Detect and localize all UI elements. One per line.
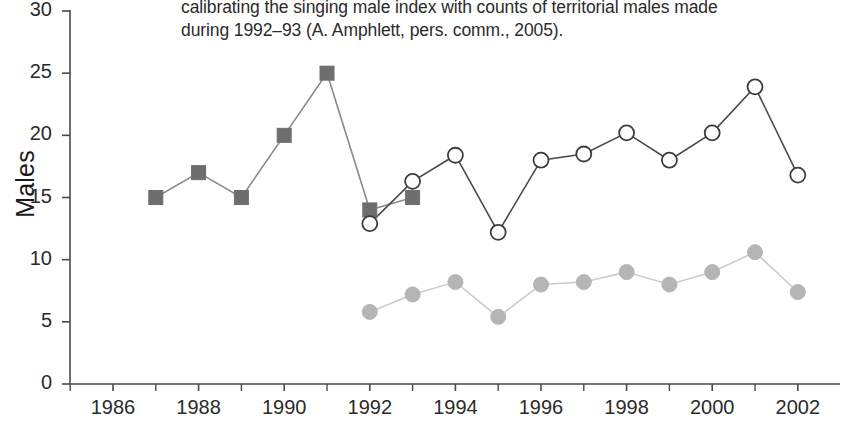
data-point-filled-circle[interactable]	[576, 275, 591, 290]
data-point-open-circle[interactable]	[534, 153, 549, 168]
data-point-open-circle[interactable]	[491, 225, 506, 240]
data-point-square[interactable]	[406, 191, 420, 205]
markers-territorial-male-counts	[149, 66, 420, 217]
data-point-filled-circle[interactable]	[405, 287, 420, 302]
data-point-open-circle[interactable]	[405, 174, 420, 189]
data-point-filled-circle[interactable]	[662, 277, 677, 292]
data-point-open-circle[interactable]	[662, 153, 677, 168]
data-point-open-circle[interactable]	[705, 125, 720, 140]
y-tick-label: 25	[12, 60, 52, 83]
data-point-filled-circle[interactable]	[448, 275, 463, 290]
plot-area: Males 0510152025301986198819901992199419…	[0, 0, 847, 426]
x-tick-label: 1988	[164, 396, 234, 419]
x-tick-label: 1994	[420, 396, 490, 419]
data-point-square[interactable]	[320, 66, 334, 80]
x-tick-label: 1986	[78, 396, 148, 419]
x-tick-label: 1990	[249, 396, 319, 419]
x-tick-label: 1996	[506, 396, 576, 419]
data-point-filled-circle[interactable]	[619, 265, 634, 280]
data-point-open-circle[interactable]	[448, 148, 463, 163]
y-tick-label: 5	[12, 309, 52, 332]
y-tick-label: 15	[12, 185, 52, 208]
y-tick-label: 30	[12, 0, 52, 21]
data-point-open-circle[interactable]	[576, 146, 591, 161]
data-point-open-circle[interactable]	[790, 168, 805, 183]
data-point-open-circle[interactable]	[619, 125, 634, 140]
x-tick-label: 2000	[677, 396, 747, 419]
data-point-open-circle[interactable]	[748, 79, 763, 94]
y-tick-label: 10	[12, 247, 52, 270]
x-tick-label: 1992	[335, 396, 405, 419]
y-tick-label: 0	[12, 371, 52, 394]
data-point-square[interactable]	[234, 191, 248, 205]
markers-singing-male-index-lower	[362, 245, 805, 325]
data-point-square[interactable]	[192, 166, 206, 180]
data-point-square[interactable]	[277, 128, 291, 142]
axes-group	[62, 10, 840, 391]
data-point-open-circle[interactable]	[362, 216, 377, 231]
chart-svg	[0, 0, 847, 426]
data-point-square[interactable]	[363, 203, 377, 217]
data-point-filled-circle[interactable]	[705, 265, 720, 280]
data-point-filled-circle[interactable]	[491, 309, 506, 324]
series-group	[149, 66, 806, 324]
figure-container: calibrating the singing male index with …	[0, 0, 847, 426]
data-point-square[interactable]	[149, 191, 163, 205]
data-point-filled-circle[interactable]	[362, 304, 377, 319]
data-point-filled-circle[interactable]	[790, 284, 805, 299]
y-tick-label: 20	[12, 122, 52, 145]
data-point-filled-circle[interactable]	[534, 277, 549, 292]
x-tick-label: 1998	[592, 396, 662, 419]
data-point-filled-circle[interactable]	[748, 245, 763, 260]
x-tick-label: 2002	[763, 396, 833, 419]
